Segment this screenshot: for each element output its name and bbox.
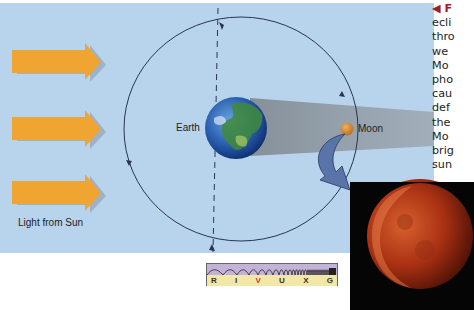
sunlight-arrow-2 bbox=[12, 110, 106, 149]
earth-globe bbox=[205, 97, 267, 159]
caption-line: the bbox=[432, 116, 474, 130]
band-g: G bbox=[327, 275, 333, 286]
sunlight-arrows bbox=[12, 43, 106, 213]
caption-line: Mo bbox=[432, 59, 474, 73]
caption-line: brig bbox=[432, 144, 474, 158]
caption-line: sun bbox=[432, 158, 474, 172]
moon-label: Moon bbox=[358, 123, 383, 134]
axis-arrow-bottom bbox=[209, 244, 215, 251]
sunlight-arrow-1 bbox=[12, 43, 106, 82]
caption-line: cau bbox=[432, 87, 474, 101]
eclipse-moon-image bbox=[350, 182, 474, 310]
band-i: I bbox=[235, 275, 237, 286]
sunlight-arrow-3 bbox=[12, 174, 106, 213]
band-r: R bbox=[211, 275, 217, 286]
band-x: X bbox=[303, 275, 308, 286]
moon bbox=[341, 123, 354, 136]
spectrum-bar: R I V U X G bbox=[206, 263, 338, 286]
caption-lead: ◀ F bbox=[432, 2, 474, 16]
caption-line: pho bbox=[432, 73, 474, 87]
earth-label: Earth bbox=[176, 122, 200, 133]
orbit-arrow-right bbox=[339, 91, 345, 97]
band-v: V bbox=[256, 275, 261, 286]
lunar-eclipse-photo bbox=[350, 182, 474, 310]
light-from-sun-label: Light from Sun bbox=[18, 217, 83, 228]
spectrum-wave bbox=[207, 264, 337, 275]
caption-line: ecli bbox=[432, 16, 474, 30]
orbit-arrow-left bbox=[126, 160, 132, 166]
caption-line: def bbox=[432, 101, 474, 115]
figure-caption: ◀ F ecli thro we Mo pho cau def the Mo b… bbox=[432, 2, 474, 172]
band-u: U bbox=[279, 275, 285, 286]
axis-arrow-top bbox=[219, 22, 224, 30]
spectrum-bands: R I V U X G bbox=[207, 275, 337, 286]
caption-line: thro bbox=[432, 30, 474, 44]
caption-line: Mo bbox=[432, 130, 474, 144]
wave-icon bbox=[207, 267, 337, 275]
caption-line: we bbox=[432, 45, 474, 59]
